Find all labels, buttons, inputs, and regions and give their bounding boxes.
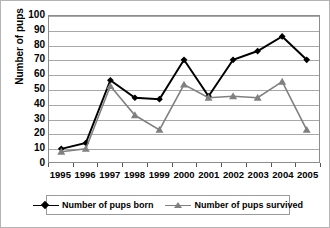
y-tick-label: 30: [5, 114, 45, 124]
y-axis-tick-labels: 0102030405060708090100: [1, 15, 45, 163]
y-tick-label: 0: [5, 158, 45, 168]
data-point-marker: [155, 126, 163, 133]
x-tick-mark: [320, 163, 321, 167]
y-tick-label: 80: [5, 40, 45, 50]
triangle-marker-icon: [165, 200, 191, 210]
legend-label: Number of pups born: [62, 200, 154, 210]
x-tick-label: 2005: [297, 169, 318, 180]
x-axis-tick-marks: [48, 163, 320, 168]
legend-label: Number of pups survived: [194, 200, 303, 210]
y-tick-label: 20: [5, 128, 45, 138]
y-tick-label: 40: [5, 99, 45, 109]
legend-item[interactable]: Number of pups survived: [165, 200, 303, 210]
x-tick-mark: [147, 163, 148, 167]
x-tick-label: 1997: [99, 169, 120, 180]
x-tick-label: 2003: [248, 169, 269, 180]
series-line: [61, 82, 306, 152]
diamond-marker-icon: [33, 200, 59, 210]
x-tick-mark: [295, 163, 296, 167]
x-tick-mark: [221, 163, 222, 167]
data-point-marker: [303, 126, 311, 133]
x-tick-label: 2004: [272, 169, 293, 180]
x-tick-label: 2002: [223, 169, 244, 180]
y-tick-label: 60: [5, 69, 45, 79]
x-tick-label: 1995: [50, 169, 71, 180]
x-tick-mark: [196, 163, 197, 167]
y-tick-label: 100: [5, 10, 45, 20]
legend-item[interactable]: Number of pups born: [33, 200, 154, 210]
x-tick-mark: [271, 163, 272, 167]
x-axis-tick-labels: 1995199619971998199920002001200220032004…: [48, 169, 320, 183]
x-tick-mark: [97, 163, 98, 167]
x-tick-mark: [172, 163, 173, 167]
x-tick-mark: [246, 163, 247, 167]
chart-container: Number of pups 0102030405060708090100 19…: [0, 0, 330, 228]
chart-legend: Number of pups bornNumber of pups surviv…: [46, 195, 290, 215]
x-tick-label: 2001: [198, 169, 219, 180]
plot-area: [48, 15, 320, 163]
y-tick-label: 90: [5, 25, 45, 35]
y-tick-label: 10: [5, 143, 45, 153]
x-tick-mark: [73, 163, 74, 167]
data-point-marker: [180, 81, 188, 88]
data-point-marker: [82, 145, 90, 152]
y-tick-label: 50: [5, 84, 45, 94]
series-line: [61, 36, 306, 148]
x-tick-label: 2000: [173, 169, 194, 180]
x-tick-mark: [48, 163, 49, 167]
y-tick-label: 70: [5, 54, 45, 64]
data-point-marker: [278, 78, 286, 85]
x-tick-label: 1996: [75, 169, 96, 180]
series-lines: [49, 16, 319, 162]
x-tick-label: 1999: [149, 169, 170, 180]
x-tick-label: 1998: [124, 169, 145, 180]
x-tick-mark: [122, 163, 123, 167]
